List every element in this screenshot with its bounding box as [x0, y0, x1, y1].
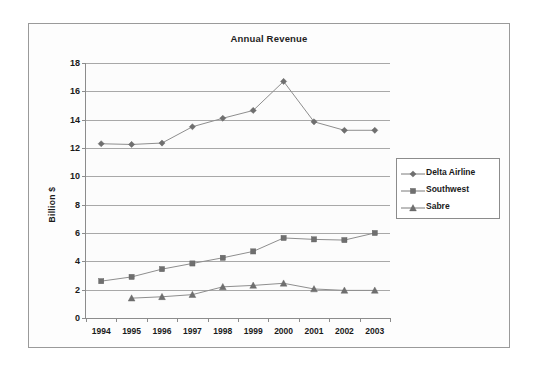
data-point-square — [342, 237, 347, 242]
x-tick-mark — [360, 318, 361, 322]
x-axis-label: 2001 — [305, 326, 324, 336]
data-point-square — [410, 188, 415, 193]
chart-legend: Delta AirlineSouthwestSabre — [396, 158, 500, 219]
data-point-diamond — [129, 141, 135, 147]
y-axis-label: 2 — [75, 285, 80, 295]
y-axis-label: 14 — [70, 115, 80, 125]
data-point-diamond — [410, 170, 416, 176]
series-line — [101, 233, 375, 281]
x-axis-label: 2002 — [335, 326, 354, 336]
x-tick-mark — [299, 318, 300, 322]
x-tick-mark — [177, 318, 178, 322]
data-point-square — [281, 235, 286, 240]
data-point-square — [372, 230, 377, 235]
x-axis-label: 1994 — [92, 326, 111, 336]
data-point-square — [159, 267, 164, 272]
x-axis-label: 2003 — [365, 326, 384, 336]
series-delta-airline — [98, 78, 378, 147]
y-axis-label: 10 — [70, 171, 80, 181]
x-axis-label: 1997 — [183, 326, 202, 336]
x-tick-mark — [329, 318, 330, 322]
data-point-square — [99, 279, 104, 284]
legend-item-delta-airline[interactable]: Delta Airline — [400, 163, 496, 180]
y-axis-label: 0 — [75, 313, 80, 323]
y-axis-label: 4 — [75, 256, 80, 266]
x-tick-mark — [208, 318, 209, 322]
data-point-diamond — [189, 124, 195, 130]
x-tick-mark — [147, 318, 148, 322]
legend-label: Delta Airline — [426, 167, 475, 177]
data-point-square — [311, 237, 316, 242]
data-point-square — [129, 274, 134, 279]
chart-title: Annual Revenue — [29, 33, 509, 44]
x-tick-mark — [86, 318, 87, 322]
legend-label: Southwest — [426, 184, 469, 194]
data-point-diamond — [159, 140, 165, 146]
y-axis-label: 16 — [70, 86, 80, 96]
legend-label: Sabre — [426, 201, 450, 211]
x-tick-mark — [116, 318, 117, 322]
x-tick-mark — [268, 318, 269, 322]
series-southwest — [99, 230, 378, 283]
data-point-square — [220, 255, 225, 260]
x-axis-label: 2000 — [274, 326, 293, 336]
legend-marker-triangle-icon — [400, 200, 426, 212]
plot-area: 024681012141618 199419951996199719981999… — [85, 63, 390, 319]
data-point-square — [251, 249, 256, 254]
legend-marker-diamond-icon — [400, 166, 426, 178]
y-axis-label: 12 — [70, 143, 80, 153]
x-axis-label: 1998 — [213, 326, 232, 336]
chart-frame: Annual Revenue Billion $ 024681012141618… — [28, 23, 510, 348]
data-point-diamond — [220, 115, 226, 121]
y-axis-label: 6 — [75, 228, 80, 238]
legend-marker-square-icon — [400, 183, 426, 195]
x-tick-mark — [390, 318, 391, 322]
series-line — [101, 81, 375, 144]
y-axis-label: 18 — [70, 58, 80, 68]
series-sabre — [128, 280, 378, 301]
legend-item-sabre[interactable]: Sabre — [400, 197, 496, 214]
data-point-diamond — [341, 127, 347, 133]
data-point-diamond — [372, 127, 378, 133]
data-point-diamond — [98, 141, 104, 147]
x-axis-label: 1995 — [122, 326, 141, 336]
x-axis-label: 1996 — [153, 326, 172, 336]
x-tick-mark — [238, 318, 239, 322]
series-layer — [86, 63, 390, 318]
y-axis-title: Billion $ — [45, 77, 59, 332]
data-point-square — [190, 261, 195, 266]
y-axis-label: 8 — [75, 200, 80, 210]
x-axis-label: 1999 — [244, 326, 263, 336]
legend-item-southwest[interactable]: Southwest — [400, 180, 496, 197]
